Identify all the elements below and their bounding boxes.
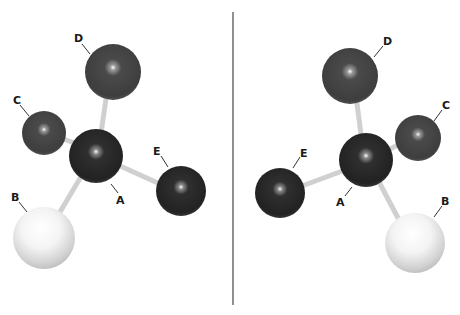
leader-a [111, 184, 118, 193]
right-molecule: D C E A B [255, 35, 450, 273]
label-e: E [153, 145, 161, 158]
label-d: D [74, 32, 83, 45]
bond-a-b [378, 180, 398, 218]
label-b: B [11, 191, 19, 204]
label-a: A [116, 194, 125, 207]
atom-c [395, 115, 441, 161]
leader-a [345, 187, 352, 196]
leader-c [20, 105, 29, 116]
label-e: E [300, 147, 308, 160]
enantiomer-diagram: D C E A B D C E A B [0, 0, 460, 315]
label-c: C [13, 94, 21, 107]
atom-e [255, 168, 305, 218]
atom-a [339, 133, 393, 187]
label-c: C [442, 99, 450, 112]
bond-a-e [302, 170, 345, 186]
leader-d [82, 44, 90, 54]
atom-e [156, 166, 206, 216]
atom-d [322, 48, 378, 104]
label-d: D [383, 35, 392, 48]
bond-a-b [60, 175, 82, 212]
atom-b [385, 213, 445, 273]
atom-d [85, 44, 141, 100]
bond-a-e [118, 165, 160, 184]
label-a: A [336, 196, 345, 209]
left-molecule: D C E A B [11, 32, 206, 269]
label-b: B [441, 195, 449, 208]
leader-c [434, 110, 442, 121]
atom-a [69, 129, 123, 183]
leader-e [293, 157, 300, 168]
atom-b [13, 207, 75, 269]
leader-d [374, 46, 383, 57]
atom-c [22, 111, 66, 155]
leader-e [161, 156, 168, 167]
leader-b [19, 202, 27, 212]
